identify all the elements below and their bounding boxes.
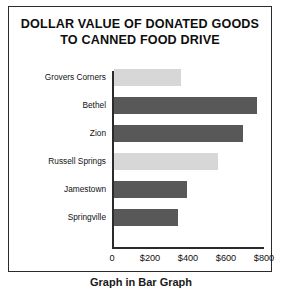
bar-row [114,69,181,86]
value-axis-tick-labels: 0 $200 $400 $600 $800 [104,252,269,266]
bar-row [114,181,187,198]
category-axis-labels: Grovers Corners Bethel Zion Russell Spri… [15,67,106,252]
chart-frame: DOLLAR VALUE OF DONATED GOODS TO CANNED … [8,6,272,272]
bar-bethel [114,97,257,114]
bar-row [114,97,257,114]
bar-zion [114,125,243,142]
bar-row [114,209,179,226]
category-label-grovers-corners: Grovers Corners [18,72,106,82]
bar-row [114,125,243,142]
chart-title: DOLLAR VALUE OF DONATED GOODS TO CANNED … [9,16,271,48]
category-label-bethel: Bethel [18,100,106,110]
tick-label-0: 0 [109,252,114,264]
value-axis-line [112,247,264,249]
category-label-jamestown: Jamestown [18,184,106,194]
bar-grovers-corners [114,69,181,86]
bar-springville [114,209,179,226]
category-label-russell-springs: Russell Springs [18,156,106,166]
chart-title-line-2: TO CANNED FOOD DRIVE [9,32,271,48]
bar-russell-springs [114,153,219,170]
bar-row [114,153,219,170]
figure-caption: Graph in Bar Graph [0,276,282,289]
bar-jamestown [114,181,187,198]
tick-label-800: $800 [254,252,274,264]
category-label-zion: Zion [18,128,106,138]
tick-label-400: $400 [178,252,198,264]
category-label-springville: Springville [18,212,106,222]
tick-label-600: $600 [216,252,236,264]
plot-area [104,67,264,252]
tick-label-200: $200 [140,252,160,264]
chart-title-line-1: DOLLAR VALUE OF DONATED GOODS [9,16,271,32]
